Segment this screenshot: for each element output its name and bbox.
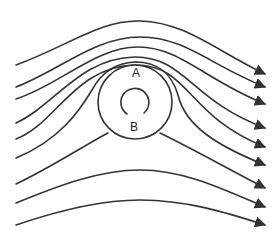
label-b: B [130,120,138,134]
label-a: A [132,66,140,80]
streamline-9 [16,200,265,225]
streamline-8 [16,170,265,207]
streamline-diagram: A B [0,0,279,251]
streamline-7 [16,133,265,188]
